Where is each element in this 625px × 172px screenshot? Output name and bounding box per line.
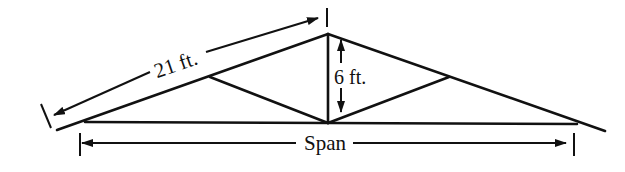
rafter-length-label: 21 ft. xyxy=(151,46,201,83)
rafter-tick-left xyxy=(41,104,51,128)
truss-diagram: 21 ft. 6 ft. Span xyxy=(0,0,625,172)
left-web xyxy=(210,77,328,123)
truss-structure xyxy=(57,34,605,131)
rafter-dim-line-upper xyxy=(206,18,318,52)
rise-label: 6 ft. xyxy=(334,66,366,88)
rafter-dim-line-lower xyxy=(54,72,150,115)
right-top-chord xyxy=(328,34,605,131)
span-label: Span xyxy=(304,131,347,155)
